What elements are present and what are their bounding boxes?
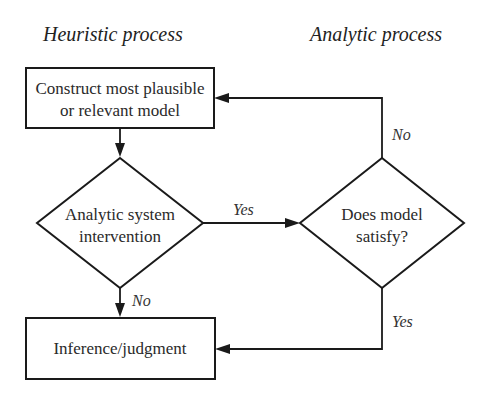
- edge-satisfy-yes: Yes: [215, 287, 413, 354]
- arrow-left-icon: [214, 93, 229, 103]
- node-model-satisfy: Does model satisfy?: [300, 158, 464, 288]
- node-model-satisfy-line2: satisfy?: [356, 227, 408, 246]
- flowchart-diagram: Heuristic process Analytic process Yes N…: [0, 0, 493, 393]
- edge-label-no-intervention: No: [131, 292, 151, 309]
- node-analytic-intervention-line2: intervention: [79, 227, 162, 246]
- node-analytic-intervention: Analytic system intervention: [37, 158, 203, 288]
- node-construct-model-line1: Construct most plausible: [35, 79, 204, 98]
- node-construct-model-line2: or relevant model: [60, 101, 180, 120]
- edge-label-yes-satisfy: Yes: [392, 313, 413, 330]
- node-model-satisfy-line1: Does model: [341, 205, 423, 224]
- node-analytic-intervention-line1: Analytic system: [65, 205, 175, 224]
- node-construct-model: Construct most plausible or relevant mod…: [26, 68, 214, 128]
- edge-label-no-satisfy: No: [391, 126, 411, 143]
- edge-construct-to-intervention: [115, 128, 125, 157]
- analytic-process-title: Analytic process: [308, 23, 442, 46]
- heuristic-process-title: Heuristic process: [42, 23, 183, 46]
- edge-satisfy-no: No: [214, 93, 411, 158]
- arrow-left-icon: [215, 344, 230, 354]
- edge-label-yes-intervention: Yes: [233, 201, 254, 218]
- edge-intervention-yes: Yes: [203, 201, 300, 228]
- node-inference: Inference/judgment: [26, 318, 215, 379]
- arrow-down-icon: [115, 303, 125, 317]
- edge-intervention-no: No: [115, 287, 151, 317]
- arrow-down-icon: [115, 143, 125, 157]
- node-inference-label: Inference/judgment: [53, 339, 186, 358]
- arrow-right-icon: [285, 218, 300, 228]
